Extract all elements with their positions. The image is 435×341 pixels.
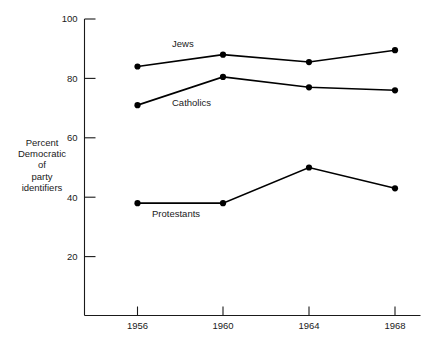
chart-canvas: 20406080100 1956196019641968 JewsCatholi… bbox=[0, 0, 435, 341]
series-label-catholics: Catholics bbox=[172, 97, 211, 108]
x-tick-label: 1956 bbox=[127, 320, 148, 331]
series-labels-group: JewsCatholicsProtestants bbox=[152, 38, 211, 219]
y-tick-label: 20 bbox=[67, 251, 78, 262]
series-line-protestants bbox=[138, 168, 396, 204]
x-tick-label: 1964 bbox=[298, 320, 319, 331]
line-chart: 20406080100 1956196019641968 JewsCatholi… bbox=[0, 0, 435, 341]
series-line-jews bbox=[138, 50, 396, 66]
y-axis-title: PercentDemocraticofpartyidentifiers bbox=[18, 137, 66, 193]
data-point bbox=[134, 200, 140, 206]
data-series-group bbox=[134, 47, 398, 206]
data-point bbox=[220, 200, 226, 206]
y-tick-label: 40 bbox=[67, 192, 78, 203]
data-point bbox=[306, 59, 312, 65]
series-label-protestants: Protestants bbox=[152, 208, 200, 219]
y-tick-label: 80 bbox=[67, 73, 78, 84]
y-axis-title-line: identifiers bbox=[22, 182, 63, 193]
series-label-jews: Jews bbox=[172, 38, 194, 49]
data-point bbox=[134, 63, 140, 69]
data-point bbox=[134, 102, 140, 108]
x-tick-label: 1960 bbox=[212, 320, 233, 331]
data-point bbox=[392, 185, 398, 191]
y-tick-label: 60 bbox=[67, 132, 78, 143]
y-tick-label: 100 bbox=[62, 13, 78, 24]
data-point bbox=[306, 84, 312, 90]
y-axis-ticks: 20406080100 bbox=[62, 13, 96, 262]
chart-axes bbox=[85, 19, 421, 316]
y-axis-title-line: party bbox=[31, 171, 52, 182]
data-point bbox=[392, 47, 398, 53]
data-point bbox=[220, 52, 226, 58]
data-point bbox=[220, 74, 226, 80]
data-point bbox=[392, 87, 398, 93]
data-point bbox=[306, 164, 312, 170]
y-axis-title-line: Democratic bbox=[18, 148, 66, 159]
y-axis-title-line: Percent bbox=[26, 137, 59, 148]
x-tick-label: 1968 bbox=[384, 320, 405, 331]
y-axis-title-line: of bbox=[38, 159, 46, 170]
x-axis-ticks: 1956196019641968 bbox=[127, 307, 406, 332]
